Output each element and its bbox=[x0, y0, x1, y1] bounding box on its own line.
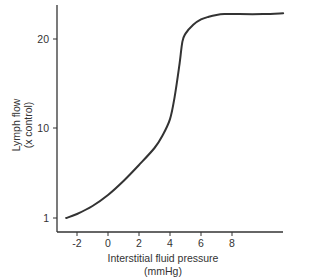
x-tick-label: 2 bbox=[136, 237, 142, 249]
x-axis-title-line2: (mmHg) bbox=[144, 265, 182, 277]
y-ticks: 11020 bbox=[37, 33, 57, 224]
y-axis-title: Lymph flow (x control) bbox=[10, 98, 34, 151]
lymph-flow-chart: -202468 11020 Lymph flow (x control) Int… bbox=[0, 0, 311, 280]
y-axis-title-line1: Lymph flow bbox=[10, 98, 22, 151]
x-tick-label: 6 bbox=[198, 237, 204, 249]
x-tick-label: 8 bbox=[229, 237, 235, 249]
x-tick-label: 0 bbox=[105, 237, 111, 249]
y-axis-title-line2: (x control) bbox=[22, 102, 34, 149]
x-tick-label: 4 bbox=[167, 237, 173, 249]
x-tick-label: -2 bbox=[72, 237, 81, 249]
lymph-flow-curve bbox=[66, 13, 283, 218]
y-tick-label: 20 bbox=[37, 33, 49, 45]
y-tick-label: 1 bbox=[43, 212, 49, 224]
x-axis-title-line1: Interstitial fluid pressure bbox=[108, 252, 219, 264]
x-ticks: -202468 bbox=[72, 232, 235, 249]
y-tick-label: 10 bbox=[37, 122, 49, 134]
